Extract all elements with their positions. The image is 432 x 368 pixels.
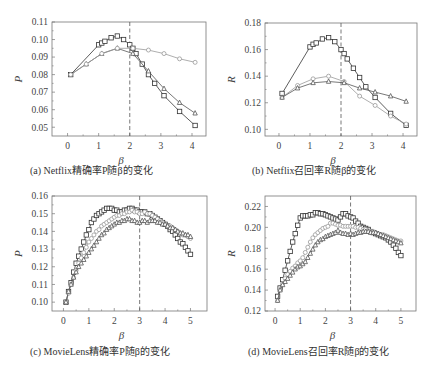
chart-b: 012340.100.120.140.160.18βR (225, 18, 417, 166)
circle-marker (82, 251, 86, 255)
square-marker (103, 39, 107, 43)
circle-marker (178, 57, 182, 61)
circle-marker (97, 228, 101, 232)
circle-marker (373, 103, 377, 107)
circle-marker (100, 52, 104, 56)
circle-marker (131, 46, 135, 50)
y-tick-label: 0.05 (31, 123, 48, 133)
x-tick-label: 2 (339, 141, 344, 151)
square-marker (121, 37, 125, 41)
square-marker (288, 249, 292, 253)
y-tick-label: 0.14 (31, 227, 48, 237)
caption-movielens-recall: (d) MovieLens召回率R随β的变化 (248, 343, 389, 358)
square-marker (357, 75, 361, 79)
series-triangles (64, 216, 193, 304)
y-tick-label: 0.08 (31, 70, 48, 80)
x-tick-label: 2 (323, 316, 328, 326)
figure-grid: (a) Netflix精确率P随β的变化 (b) Netflix召回率R随β的变… (0, 0, 432, 368)
square-marker (345, 57, 349, 61)
x-tick-label: 3 (137, 316, 142, 326)
y-tick-label: 0.13 (31, 244, 48, 254)
caption-netflix-recall: (b) Netflix召回率R随β的变化 (252, 162, 376, 177)
y-tick-label: 0.12 (244, 306, 261, 316)
x-tick-label: 3 (370, 141, 375, 151)
square-marker (177, 109, 181, 113)
square-marker (394, 246, 398, 250)
circle-marker (84, 245, 88, 249)
x-tick-label: 0 (61, 316, 66, 326)
y-tick-label: 0.16 (244, 45, 261, 55)
square-marker (188, 252, 192, 256)
square-marker (314, 41, 318, 45)
y-axis-title: R (225, 76, 237, 84)
square-marker (333, 39, 337, 43)
x-tick-label: 5 (399, 316, 404, 326)
caption-movielens-precision: (c) MovieLens精确率P随β的变化 (30, 343, 170, 358)
square-marker (82, 240, 86, 244)
circle-marker (92, 233, 96, 237)
x-tick-label: 4 (163, 316, 168, 326)
x-tick-label: 1 (96, 141, 101, 151)
circle-marker (193, 60, 197, 64)
triangle-marker (71, 275, 75, 279)
y-tick-label: 0.07 (31, 87, 48, 97)
x-tick-label: 4 (190, 141, 195, 151)
circle-marker (146, 48, 150, 52)
triangle-marker (357, 86, 361, 90)
square-marker (283, 268, 287, 272)
circle-marker (87, 240, 91, 244)
triangle-marker (193, 111, 197, 115)
square-marker (193, 123, 197, 127)
square-marker (87, 227, 91, 231)
x-tick-label: 1 (308, 141, 313, 151)
square-marker (399, 253, 403, 257)
circle-marker (306, 245, 310, 249)
y-tick-label: 0.14 (244, 71, 261, 81)
y-axis-title: R (225, 250, 237, 258)
plots-canvas: 012340.050.060.070.080.090.100.11βP01234… (0, 0, 432, 368)
y-axis-title: P (12, 250, 24, 258)
circle-marker (389, 114, 393, 118)
circle-marker (84, 62, 88, 66)
circle-marker (115, 46, 119, 50)
x-axis-title: β (118, 329, 125, 341)
circle-marker (69, 73, 73, 77)
series-diamonds (64, 208, 193, 304)
y-tick-label: 0.10 (31, 35, 48, 45)
triangle-marker (311, 80, 315, 84)
square-marker (293, 231, 297, 235)
y-tick-label: 0.11 (32, 280, 49, 290)
square-marker (84, 233, 88, 237)
square-marker (320, 37, 324, 41)
y-tick-label: 0.14 (244, 285, 261, 295)
triangle-marker (404, 99, 408, 103)
y-tick-label: 0.12 (244, 98, 261, 108)
y-tick-label: 0.15 (31, 209, 48, 219)
y-tick-label: 0.22 (244, 202, 261, 212)
x-tick-label: 1 (298, 316, 303, 326)
y-tick-label: 0.18 (244, 244, 261, 254)
square-marker (326, 35, 330, 39)
x-tick-label: 2 (127, 141, 132, 151)
y-axis-title: P (12, 75, 24, 83)
square-marker (373, 95, 377, 99)
circle-marker (162, 52, 166, 56)
y-tick-label: 0.06 (31, 105, 48, 115)
x-tick-label: 0 (277, 141, 282, 151)
circle-marker (358, 94, 362, 98)
x-tick-label: 3 (159, 141, 164, 151)
chart-a: 012340.050.060.070.080.090.100.11βP (12, 17, 206, 166)
circle-marker (327, 74, 331, 78)
chart-d: 0123450.120.140.160.180.200.22βR (225, 196, 416, 341)
square-marker (109, 36, 113, 40)
plot-frame (52, 22, 206, 136)
square-marker (296, 223, 300, 227)
x-tick-label: 5 (188, 316, 193, 326)
triangle-marker (326, 79, 330, 83)
square-marker (351, 66, 355, 70)
x-tick-label: 0 (65, 141, 70, 151)
x-tick-label: 3 (348, 316, 353, 326)
square-marker (290, 240, 294, 244)
y-tick-label: 0.11 (32, 17, 49, 27)
square-marker (162, 93, 166, 97)
